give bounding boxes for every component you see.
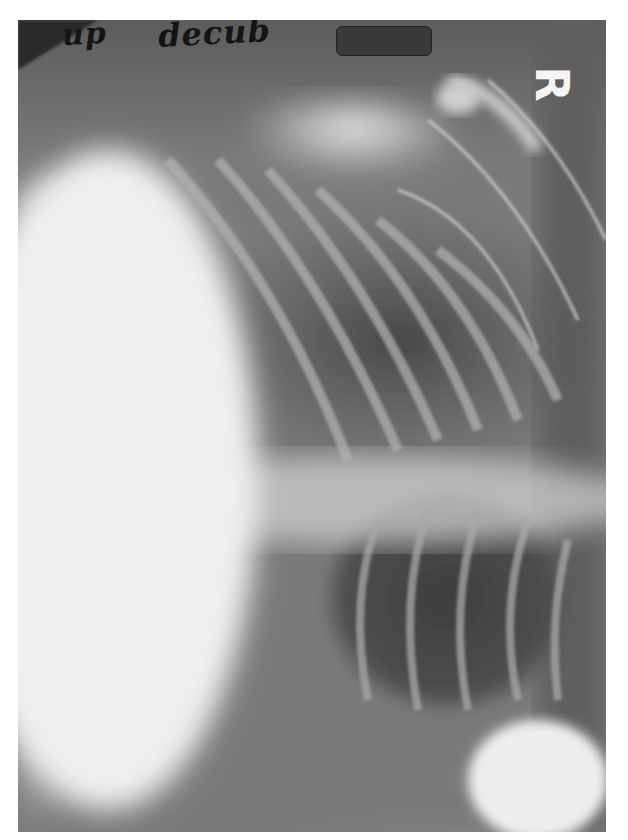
handwritten-annotation-decub: decub: [157, 20, 272, 55]
xray-image: up decub R: [18, 20, 606, 832]
side-marker-r: R: [528, 54, 576, 114]
xray-anatomy: [18, 20, 606, 832]
redaction-box: [336, 26, 432, 56]
handwritten-annotation-up: up: [61, 20, 108, 52]
